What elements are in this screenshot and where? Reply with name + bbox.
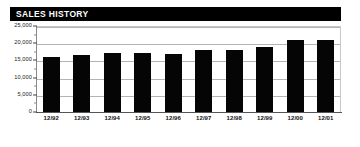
y-axis-tick-mark bbox=[33, 112, 37, 113]
y-axis-tick-mark bbox=[33, 43, 37, 44]
y-axis-tick-mark bbox=[33, 77, 37, 78]
sales-history-chart-figure: SALES HISTORY 05,00010,00015,00020,00025… bbox=[0, 0, 360, 147]
y-axis-minor-tick bbox=[34, 103, 36, 104]
bar bbox=[256, 47, 273, 112]
y-axis-tick-label: 15,000 bbox=[14, 58, 32, 64]
bar bbox=[317, 40, 334, 112]
bar bbox=[165, 54, 182, 112]
y-axis-tick-label: 20,000 bbox=[14, 40, 32, 46]
y-axis-minor-tick bbox=[34, 86, 36, 87]
y-axis-tick-label: 10,000 bbox=[14, 75, 32, 81]
x-axis-tick-label: 12/97 bbox=[196, 115, 211, 121]
plot-wrapper: 05,00010,00015,00020,00025,000 12/9212/9… bbox=[0, 24, 360, 147]
bar bbox=[43, 57, 60, 112]
y-axis-labels: 05,00010,00015,00020,00025,000 bbox=[0, 24, 32, 147]
page-title: SALES HISTORY bbox=[16, 10, 89, 19]
bars-layer bbox=[36, 26, 341, 112]
x-axis-tick-label: 12/00 bbox=[288, 115, 303, 121]
y-axis-tick-label: 25,000 bbox=[14, 23, 32, 29]
x-axis-tick-label: 12/98 bbox=[227, 115, 242, 121]
x-axis-labels: 12/9212/9312/9412/9512/9612/9712/9812/99… bbox=[36, 115, 341, 129]
bar bbox=[195, 50, 212, 112]
bar bbox=[134, 53, 151, 112]
x-axis-tick-label: 12/92 bbox=[44, 115, 59, 121]
y-axis-tick-mark bbox=[33, 94, 37, 95]
bar bbox=[104, 53, 121, 112]
x-axis-tick-label: 12/95 bbox=[135, 115, 150, 121]
x-axis-tick-label: 12/94 bbox=[105, 115, 120, 121]
y-axis-minor-tick bbox=[34, 34, 36, 35]
y-axis-minor-tick bbox=[34, 51, 36, 52]
chart-title-banner: SALES HISTORY bbox=[10, 7, 341, 21]
x-axis-tick-label: 12/99 bbox=[257, 115, 272, 121]
x-axis-tick-label: 12/01 bbox=[318, 115, 333, 121]
bar bbox=[287, 40, 304, 112]
bar bbox=[73, 55, 90, 112]
y-axis-tick-label: 0 bbox=[29, 109, 32, 115]
x-axis-line bbox=[36, 112, 342, 113]
bar bbox=[226, 50, 243, 112]
x-axis-tick-label: 12/93 bbox=[74, 115, 89, 121]
y-axis-minor-tick bbox=[34, 69, 36, 70]
y-axis-tick-label: 5,000 bbox=[18, 92, 33, 98]
y-axis-tick-mark bbox=[33, 26, 37, 27]
y-axis-tick-mark bbox=[33, 60, 37, 61]
x-axis-tick-label: 12/96 bbox=[166, 115, 181, 121]
